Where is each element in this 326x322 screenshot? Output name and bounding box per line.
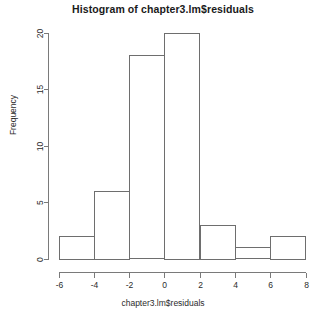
x-axis-tick-label: 6	[268, 280, 273, 290]
y-axis-label: Frequency	[8, 70, 18, 160]
histogram-bar	[271, 237, 306, 260]
histogram-bar	[130, 56, 165, 259]
histogram-bar	[165, 34, 200, 260]
plot-canvas: 05101520 -6-4-202468	[0, 0, 326, 322]
x-axis-tick-label: -2	[126, 280, 134, 290]
x-axis-tick-label: 4	[233, 280, 238, 290]
x-axis-tick-label: -6	[56, 280, 64, 290]
histogram-bar	[201, 226, 236, 260]
x-axis-tick-label: -4	[91, 280, 99, 290]
y-axis-tick-label: 15	[35, 85, 45, 95]
y-axis-tick-label: 0	[35, 257, 45, 262]
y-axis-tick-label: 5	[35, 200, 45, 205]
histogram-bar	[60, 237, 95, 260]
x-axis-tick-label: 2	[198, 280, 203, 290]
histogram-bar	[95, 192, 130, 260]
x-axis-tick-label: 8	[304, 280, 309, 290]
histogram-bars	[60, 34, 306, 260]
x-axis-tick-label: 0	[162, 280, 167, 290]
histogram-plot: Histogram of chapter3.lm$residuals 05101…	[0, 0, 326, 322]
x-axis-label: chapter3.lm$residuals	[0, 298, 326, 308]
y-axis-tick-labels: 05101520	[35, 29, 45, 262]
histogram-bar	[236, 248, 271, 259]
x-axis-tick-labels: -6-4-202468	[56, 280, 309, 290]
y-axis-tick-label: 20	[35, 29, 45, 39]
y-axis-tick-label: 10	[35, 142, 45, 152]
x-axis-ticks	[60, 273, 307, 278]
